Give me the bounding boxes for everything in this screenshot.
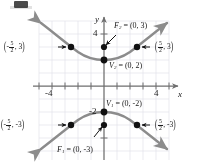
hyperbola-figure xyxy=(0,0,200,165)
ll-fraction: 52 xyxy=(6,119,11,132)
ul-rest: , 3 xyxy=(15,42,23,51)
point-upper-left xyxy=(68,44,74,50)
label-focus-lower: F1 = (0, -3) xyxy=(57,146,93,155)
ll-close-paren: ) xyxy=(22,120,24,132)
ll-open-paren: ( xyxy=(1,120,3,132)
label-vertex-upper: V2 = (0, 2) xyxy=(109,62,142,71)
y-tick-label-neg2: -2 xyxy=(89,107,97,116)
point-vertex-lower xyxy=(101,109,108,116)
label-point-upper-left: (-52, 3) xyxy=(4,41,25,54)
ul-open-paren: ( xyxy=(4,42,6,54)
ul-denominator: 2 xyxy=(9,48,14,54)
label-focus-upper: F2 = (0, 3) xyxy=(114,22,147,31)
vertex-upper-eq: = (0, 2) xyxy=(116,61,142,70)
label-vertex-lower: V1 = (0, -2) xyxy=(106,100,142,109)
focus-lower-eq: = (0, -3) xyxy=(64,145,93,154)
ur-rest: , 3 xyxy=(163,42,171,51)
label-point-lower-right: (52, -3) xyxy=(155,119,176,132)
label-point-lower-left: (-52, -3) xyxy=(1,119,24,132)
point-lower-right xyxy=(134,122,140,128)
leader-focus-upper xyxy=(106,35,116,45)
point-upper-right xyxy=(134,44,140,50)
ll-denominator: 2 xyxy=(6,126,11,132)
x-tick-label-4: 4 xyxy=(154,89,159,98)
leader-focus-lower xyxy=(94,127,102,137)
y-tick-label-4: 4 xyxy=(93,29,98,38)
ul-fraction: 52 xyxy=(9,41,14,54)
lr-rest: , -3 xyxy=(163,120,173,129)
ul-close-paren: ) xyxy=(22,42,24,54)
label-point-upper-right: (52, 3) xyxy=(155,41,173,54)
point-lower-left xyxy=(68,122,74,128)
ll-rest: , -3 xyxy=(12,120,22,129)
lr-open-paren: ( xyxy=(155,120,157,132)
vertex-lower-eq: = (0, -2) xyxy=(113,99,142,108)
x-axis-label: x xyxy=(178,90,182,99)
ur-open-paren: ( xyxy=(155,42,157,54)
y-axis-label: y xyxy=(95,15,99,24)
focus-upper-eq: = (0, 3) xyxy=(121,21,147,30)
point-vertex-upper xyxy=(101,57,108,64)
ur-close-paren: ) xyxy=(171,42,173,54)
lr-close-paren: ) xyxy=(173,120,175,132)
x-tick-label-neg4: -4 xyxy=(45,89,53,98)
